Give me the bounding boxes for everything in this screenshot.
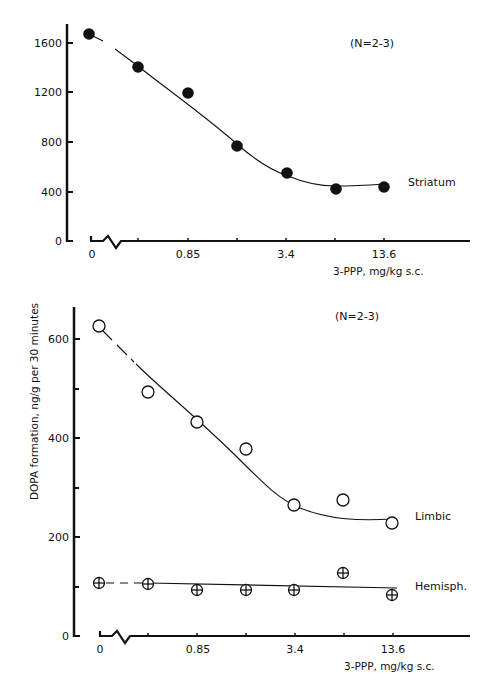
striatum-point <box>378 181 390 193</box>
hemisph-curve <box>148 583 397 588</box>
striatum-point <box>182 87 194 99</box>
top-y-label-400: 400 <box>41 186 62 199</box>
limbic-point <box>142 386 154 398</box>
bottom-panel: 600 400 200 0 0 0.85 3.4 13.6 3-PPP, mg/… <box>48 307 470 672</box>
top-y-label-1600: 1600 <box>34 37 62 50</box>
limbic-point <box>386 517 398 529</box>
hemisph-markers <box>94 568 398 601</box>
bottom-y-label-0: 0 <box>62 630 69 643</box>
top-x-label-0-85: 0.85 <box>176 248 201 261</box>
striatum-point <box>281 167 293 179</box>
bottom-x-label-3-4: 3.4 <box>286 643 304 656</box>
limbic-point <box>337 494 349 506</box>
limbic-markers <box>93 320 398 529</box>
top-y-label-0: 0 <box>55 235 62 248</box>
bottom-y-label-200: 200 <box>48 531 69 544</box>
top-x-label-3-4: 3.4 <box>277 248 295 261</box>
hemisph-point <box>387 590 398 601</box>
striatum-point <box>330 183 342 195</box>
top-y-label-800: 800 <box>41 136 62 149</box>
limbic-point <box>93 320 105 332</box>
striatum-point <box>132 61 144 73</box>
hemisph-label: Hemisph. <box>415 580 467 593</box>
hemisph-point <box>338 568 349 579</box>
limbic-point <box>240 443 252 455</box>
striatum-markers <box>83 28 390 195</box>
bottom-x-axis-title: 3-PPP, mg/kg s.c. <box>344 660 435 672</box>
hemisph-point <box>241 585 252 596</box>
hemisph-point <box>94 578 105 589</box>
top-panel: 1600 1200 800 400 0 0 0.85 3.4 13.6 3-PP… <box>34 24 470 277</box>
bottom-x-label-0: 0 <box>97 643 104 656</box>
bottom-y-label-600: 600 <box>48 333 69 346</box>
top-x-axis <box>91 236 470 248</box>
limbic-label: Limbic <box>415 510 451 523</box>
top-x-label-13-6: 13.6 <box>372 248 397 261</box>
top-y-label-1200: 1200 <box>34 86 62 99</box>
bottom-x-label-0-85: 0.85 <box>186 643 211 656</box>
striatum-point <box>231 140 243 152</box>
chart-svg: 1600 1200 800 400 0 0 0.85 3.4 13.6 3-PP… <box>0 0 490 685</box>
hemisph-point <box>143 579 154 590</box>
top-n-annotation: (N=2-3) <box>350 37 394 50</box>
top-x-label-0: 0 <box>89 248 96 261</box>
bottom-x-axis <box>100 631 470 643</box>
limbic-dashed-segment <box>103 331 134 362</box>
top-x-axis-title: 3-PPP, mg/kg s.c. <box>333 265 424 277</box>
limbic-point <box>191 416 203 428</box>
striatum-label: Striatum <box>408 176 456 189</box>
hemisph-point <box>192 585 203 596</box>
striatum-curve <box>115 49 384 186</box>
y-axis-title: DOPA formation, ng/g per 30 minutes <box>28 303 40 500</box>
limbic-point <box>288 499 300 511</box>
bottom-x-label-13-6: 13.6 <box>381 643 406 656</box>
bottom-n-annotation: (N=2-3) <box>335 310 379 323</box>
striatum-point <box>83 28 95 40</box>
bottom-y-label-400: 400 <box>48 432 69 445</box>
hemisph-point <box>289 585 300 596</box>
figure: 1600 1200 800 400 0 0 0.85 3.4 13.6 3-PP… <box>0 0 490 685</box>
limbic-curve <box>136 364 393 520</box>
